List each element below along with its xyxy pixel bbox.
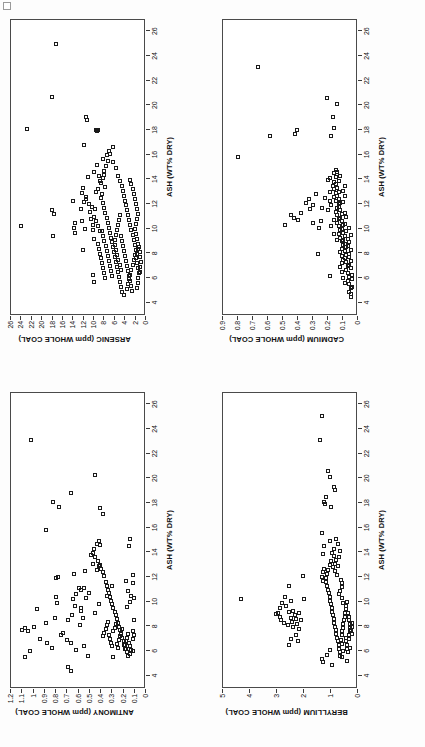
x-tick [358,403,362,404]
x-tick [358,527,362,528]
data-point [329,134,333,138]
data-point [123,199,127,203]
data-point [115,253,119,257]
data-point [82,644,86,648]
x-tick-label: 12 [363,573,370,580]
y-tick [124,316,125,320]
data-point [101,634,105,638]
y-tick-label: 10 [90,321,97,345]
data-point [82,200,86,204]
x-tick-label: 24 [363,52,370,59]
data-point [28,649,32,653]
y-tick [31,316,32,320]
x-tick-label: 10 [363,225,370,232]
data-point [317,226,321,230]
data-point [301,574,305,578]
data-point [294,633,298,637]
data-point [126,589,130,593]
y-tick-label: 0 [354,694,361,718]
data-point [139,260,143,264]
data-point [70,613,74,617]
x-tick [146,228,150,229]
data-point [291,625,295,629]
y-tick [327,316,328,320]
data-point [44,528,48,532]
data-point [101,266,105,270]
data-point [98,543,102,547]
data-point [128,600,132,604]
x-tick-label: 18 [151,126,158,133]
data-point [286,623,290,627]
data-point [125,605,129,609]
data-point [138,265,142,269]
data-point [103,211,107,215]
data-point [323,196,327,200]
y-tick [10,316,11,320]
x-tick-label: 4 [151,674,158,678]
data-point [134,222,138,226]
data-point [111,146,115,150]
data-point [136,281,140,285]
data-point [129,183,133,187]
data-point [107,149,111,153]
data-point [331,115,335,119]
data-point [129,268,133,272]
data-point [347,255,351,259]
x-tick-label: 6 [363,649,370,653]
panel-antimony: ASH (WT% DRY) ANTIMONY (ppm WHOLE COAL) … [0,374,212,747]
data-point [324,495,328,499]
data-point [120,184,124,188]
x-tick-label: 16 [151,151,158,158]
data-point [350,625,354,629]
x-tick [358,551,362,552]
x-tick [358,302,362,303]
data-point [94,220,98,224]
data-point [329,559,333,563]
data-point [287,643,291,647]
x-tick-label: 6 [151,649,158,653]
data-point [131,630,135,634]
data-point [341,258,345,262]
data-point [81,616,85,620]
data-point [328,190,332,194]
y-tick [33,689,34,693]
x-tick-label: 4 [363,301,370,305]
data-point [79,588,83,592]
x-axis-title-arsenic: ASH (WT% DRY) [165,19,174,315]
data-point [320,414,324,418]
x-tick [358,178,362,179]
y-tick [135,316,136,320]
data-point [124,579,128,583]
data-point [138,270,142,274]
data-point [284,604,288,608]
x-tick [358,55,362,56]
y-tick [66,689,67,693]
data-point [289,599,293,603]
x-tick-label: 24 [151,425,158,432]
data-point [346,244,350,248]
data-point [338,589,342,593]
x-tick [146,30,150,31]
y-tick [282,316,283,320]
data-point [340,655,344,659]
data-point [106,159,110,163]
data-point [337,179,341,183]
data-point [110,584,114,588]
data-point [124,203,128,207]
data-point [343,222,347,226]
data-point [320,531,324,535]
y-tick-label: 16 [58,321,65,345]
y-tick [78,689,79,693]
data-point [337,556,341,560]
data-point [325,572,329,576]
y-tick-label: 1.1 [18,694,25,718]
data-point [330,663,334,667]
data-point [132,596,136,600]
data-point [297,611,301,615]
data-point [130,289,134,293]
data-point [100,261,104,265]
x-tick [146,502,150,503]
data-point [340,239,344,243]
x-tick [146,625,150,626]
data-point [299,211,303,215]
